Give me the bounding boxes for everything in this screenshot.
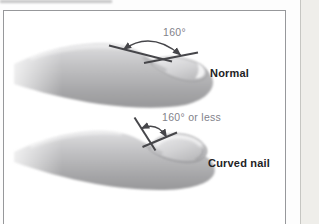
angle-value-curved: 160° or less [162, 111, 221, 123]
caption-normal: Normal [210, 67, 249, 79]
nail-angle-illustration [0, 0, 319, 224]
finger-normal-group [14, 43, 213, 108]
finger-curved-group [14, 131, 215, 190]
caption-curved: Curved nail [208, 157, 270, 169]
textbook-figure-page: 160° Normal 160° or less Curved nail [0, 0, 319, 224]
angle-value-normal: 160° [163, 26, 186, 38]
